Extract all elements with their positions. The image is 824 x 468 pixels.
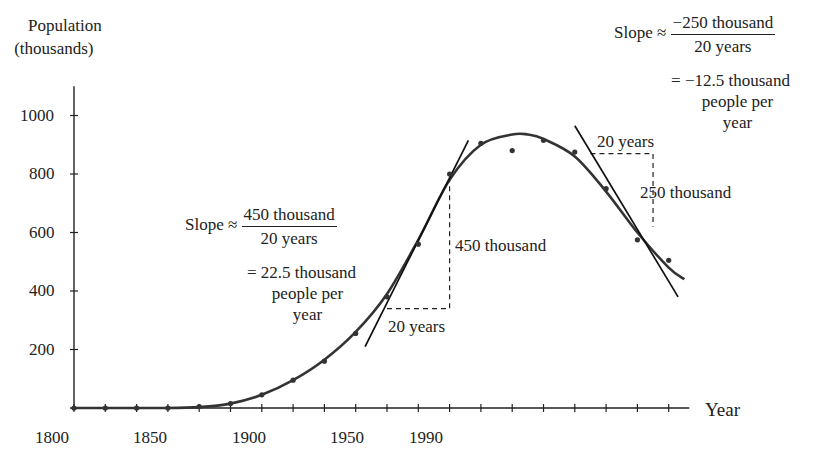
data-point <box>228 401 233 406</box>
y-tick-label: 600 <box>29 223 55 243</box>
x-tick-label: 1990 <box>409 428 443 448</box>
data-point <box>604 186 609 191</box>
y-tick-label: 1000 <box>20 106 54 126</box>
rise-label-right: 250 thousand <box>640 183 731 203</box>
data-point <box>510 148 515 153</box>
run-label-left: 20 years <box>388 317 445 337</box>
slope-annotation-right: Slope ≈ −250 thousand 20 years <box>614 12 775 57</box>
x-tick-label: 1900 <box>232 428 266 448</box>
data-point <box>259 392 264 397</box>
data-point <box>134 405 139 410</box>
rise-label-left: 450 thousand <box>455 236 546 256</box>
data-point <box>322 359 327 364</box>
x-axis-label: Year <box>705 400 740 420</box>
y-axis-label: Population (thousands) <box>28 14 102 60</box>
slope-result-line3: year <box>245 304 370 325</box>
slope-result-line1: = −12.5 thousand <box>651 70 810 91</box>
slope-fraction: 450 thousand 20 years <box>242 204 337 249</box>
slope-annotation-left: Slope ≈ 450 thousand 20 years <box>185 204 337 249</box>
slope-denominator: 20 years <box>242 227 337 249</box>
data-point <box>572 149 577 154</box>
run-label-right: 20 years <box>597 132 654 152</box>
y-axis-label-line2: (thousands) <box>6 37 102 60</box>
slope-result-line2: people per <box>665 91 810 112</box>
slope-result-line1: = 22.5 thousand <box>233 262 370 283</box>
fitted-curve <box>74 134 684 409</box>
slope-result-line2: people per <box>245 283 370 304</box>
data-point <box>103 405 108 410</box>
slope-result-right: = −12.5 thousand people per year <box>665 70 810 133</box>
y-tick-label: 200 <box>29 340 55 360</box>
y-tick-label: 400 <box>29 281 55 301</box>
data-point <box>447 171 452 176</box>
data-point <box>384 294 389 299</box>
slope-result-line3: year <box>665 112 810 133</box>
data-points <box>71 138 671 411</box>
slope-result-left: = 22.5 thousand people per year <box>245 262 370 325</box>
x-tick-label: 1850 <box>133 428 167 448</box>
slope-denominator: 20 years <box>671 35 776 57</box>
y-axis-label-line1: Population <box>28 14 102 37</box>
slope-fraction: −250 thousand 20 years <box>671 12 776 57</box>
slope-numerator: −250 thousand <box>671 12 776 35</box>
slope-prefix: Slope ≈ <box>614 23 666 42</box>
data-point <box>353 331 358 336</box>
data-point <box>541 138 546 143</box>
slope-prefix: Slope ≈ <box>185 215 237 234</box>
y-tick-label: 800 <box>29 164 55 184</box>
data-point <box>291 378 296 383</box>
data-point <box>197 404 202 409</box>
data-point <box>71 405 76 410</box>
slope-triangles <box>387 154 653 309</box>
data-point <box>478 141 483 146</box>
slope-numerator: 450 thousand <box>242 204 337 227</box>
data-point <box>635 237 640 242</box>
x-tick-label: 1800 <box>35 428 69 448</box>
data-point <box>666 258 671 263</box>
x-tick-label: 1950 <box>330 428 364 448</box>
data-point <box>416 242 421 247</box>
data-point <box>165 405 170 410</box>
